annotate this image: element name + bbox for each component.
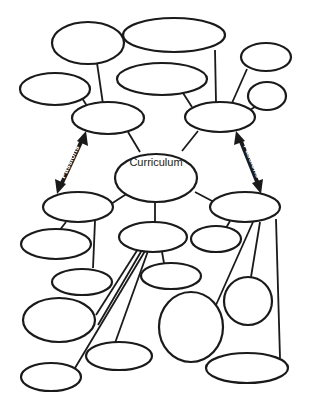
node-left-3[interactable] xyxy=(52,269,112,295)
node-bottom-right[interactable] xyxy=(206,353,288,383)
edge-lc-bottomcenter xyxy=(115,251,148,343)
node-lower-center-hub[interactable] xyxy=(119,222,187,252)
node-left-4[interactable] xyxy=(23,298,95,342)
node-mid-center-top[interactable] xyxy=(117,63,207,95)
node-right-circle[interactable] xyxy=(224,277,272,325)
node-large-circle[interactable] xyxy=(159,292,223,362)
concept-map-diagram: Curriculum Passions Passions xyxy=(0,0,309,410)
edge-ur-toprightsmall xyxy=(232,69,247,103)
node-upper-left-hub[interactable] xyxy=(72,102,144,134)
edge-ur-topcenter xyxy=(215,50,216,102)
right-passions-arrow: Passions xyxy=(234,131,263,194)
edge-lc-centerbelow xyxy=(162,252,164,263)
left-passions-arrow: Passions xyxy=(55,131,88,194)
node-mid-left[interactable] xyxy=(20,73,90,105)
node-top-right-small[interactable] xyxy=(241,43,291,71)
node-top-center-wide[interactable] xyxy=(123,18,225,52)
edge-center-lower-right xyxy=(195,192,214,202)
node-bottom-center[interactable] xyxy=(86,342,152,370)
node-center-below[interactable] xyxy=(141,263,201,289)
node-left-2[interactable] xyxy=(21,229,91,259)
center-label: Curriculum xyxy=(129,156,182,168)
edge-lr-bottomright xyxy=(276,219,280,358)
node-lower-right-hub[interactable] xyxy=(210,192,280,222)
node-right-small[interactable] xyxy=(248,82,286,110)
node-bottom-left[interactable] xyxy=(21,363,81,391)
edge-center-upper-right xyxy=(182,131,198,151)
edge-center-upper-left xyxy=(128,132,140,152)
node-center-small-right[interactable] xyxy=(191,226,241,252)
node-upper-right-hub[interactable] xyxy=(185,102,255,132)
edge-ll-left3 xyxy=(93,221,95,268)
edge-lr-rightcircle xyxy=(251,222,260,277)
edge-ul-topleft xyxy=(97,63,103,104)
edge-ur-midcenter xyxy=(183,93,192,107)
node-top-left[interactable] xyxy=(52,22,124,64)
left-arrow-label: Passions xyxy=(58,144,81,180)
node-lower-left-hub[interactable] xyxy=(43,192,113,222)
